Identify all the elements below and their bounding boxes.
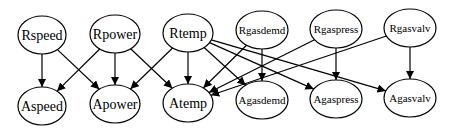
node-label: Rtemp bbox=[169, 26, 206, 41]
node-rspeed: Rspeed bbox=[18, 16, 66, 54]
node-atemp: Atemp bbox=[163, 84, 213, 122]
edge-rgasdemd-to-atemp bbox=[203, 45, 246, 88]
node-aspeed: Aspeed bbox=[18, 87, 66, 125]
node-label: Rpower bbox=[93, 27, 138, 42]
node-rgasdemd: Rgasdemd bbox=[236, 11, 288, 49]
edge-rgasvalv-to-atemp bbox=[211, 36, 387, 95]
node-label: Agasdemd bbox=[238, 94, 286, 106]
node-agasdemd: Agasdemd bbox=[236, 81, 288, 119]
node-rgasvalv: Rgasvalv bbox=[384, 9, 436, 47]
node-rtemp: Rtemp bbox=[163, 14, 213, 52]
node-label: Aspeed bbox=[21, 99, 63, 114]
dependency-graph: RspeedRpowerRtempRgasdemdRgaspressRgasva… bbox=[0, 0, 449, 133]
node-label: Rgaspress bbox=[314, 23, 359, 35]
node-label: Agasvalv bbox=[389, 92, 431, 104]
node-label: Rgasdemd bbox=[239, 24, 286, 36]
node-label: Atemp bbox=[169, 96, 207, 111]
node-apower: Apower bbox=[90, 85, 140, 123]
node-label: Rspeed bbox=[21, 28, 62, 43]
node-label: Rgasvalv bbox=[390, 22, 431, 34]
node-agaspress: Agaspress bbox=[310, 80, 362, 118]
node-label: Apower bbox=[92, 97, 137, 112]
node-label: Agaspress bbox=[313, 93, 358, 105]
node-agasvalv: Agasvalv bbox=[384, 79, 436, 117]
node-rgaspress: Rgaspress bbox=[310, 10, 362, 48]
node-rpower: Rpower bbox=[90, 15, 140, 53]
